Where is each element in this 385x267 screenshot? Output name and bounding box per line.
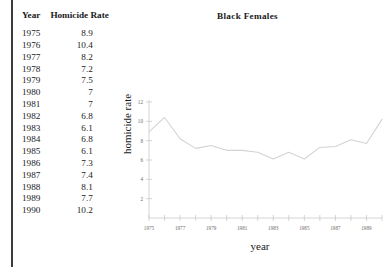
page-left-rule xyxy=(11,0,13,267)
cell-year: 1987 xyxy=(22,171,50,183)
x-tick-label: 1981 xyxy=(237,225,248,231)
table-row: 19817 xyxy=(22,100,109,112)
cell-homicide-rate: 6.1 xyxy=(50,147,108,159)
cell-homicide-rate: 7.3 xyxy=(50,159,108,171)
column-header-homicide-rate: Homicide Rate xyxy=(50,11,108,29)
y-tick-label: 8 xyxy=(140,138,143,144)
chart-data-line xyxy=(149,117,382,159)
cell-homicide-rate: 6.8 xyxy=(50,135,108,147)
table-header: Year Homicide Rate xyxy=(22,11,109,29)
cell-year: 1982 xyxy=(22,112,50,124)
table-body: 19758.9197610.419778.219787.219797.51980… xyxy=(22,29,109,218)
cell-homicide-rate: 8.2 xyxy=(50,53,108,65)
cell-year: 1990 xyxy=(22,206,50,218)
x-tick-label: 1987 xyxy=(330,225,341,231)
cell-homicide-rate: 7 xyxy=(50,88,108,100)
y-tick-label: 2 xyxy=(140,196,143,202)
chart-series-group xyxy=(149,117,382,159)
y-tick-label: 4 xyxy=(140,176,143,182)
table-row: 19877.4 xyxy=(22,171,109,183)
page-root: Year Homicide Rate 19758.9197610.419778.… xyxy=(0,0,385,267)
y-tick-label: 10 xyxy=(138,118,144,124)
cell-homicide-rate: 7.2 xyxy=(50,65,108,77)
cell-year: 1986 xyxy=(22,159,50,171)
chart-canvas: 2468101219751977197919811983198519871989 xyxy=(110,0,385,267)
cell-homicide-rate: 7.5 xyxy=(50,76,108,88)
table-row: 199010.2 xyxy=(22,206,109,218)
cell-homicide-rate: 8.1 xyxy=(50,183,108,195)
cell-year: 1981 xyxy=(22,100,50,112)
x-tick-label: 1979 xyxy=(206,225,217,231)
cell-year: 1977 xyxy=(22,53,50,65)
line-chart: Black Females homicide rate year 2468101… xyxy=(110,0,385,267)
cell-homicide-rate: 6.8 xyxy=(50,112,108,124)
x-tick-label: 1977 xyxy=(175,225,186,231)
table-row: 19867.3 xyxy=(22,159,109,171)
table-row: 19778.2 xyxy=(22,53,109,65)
x-tick-label: 1975 xyxy=(144,225,155,231)
x-tick-label: 1983 xyxy=(268,225,279,231)
cell-homicide-rate: 7 xyxy=(50,100,108,112)
cell-homicide-rate: 6.1 xyxy=(50,124,108,136)
column-header-year: Year xyxy=(22,11,50,29)
data-table: Year Homicide Rate 19758.9197610.419778.… xyxy=(22,11,109,218)
cell-homicide-rate: 10.4 xyxy=(50,41,108,53)
x-tick-label: 1985 xyxy=(299,225,310,231)
y-tick-label: 6 xyxy=(140,157,143,163)
y-tick-label: 12 xyxy=(138,99,144,105)
x-tick-label: 1989 xyxy=(361,225,372,231)
cell-homicide-rate: 10.2 xyxy=(50,206,108,218)
chart-axes: 2468101219751977197919811983198519871989 xyxy=(138,99,382,231)
table-header-row: Year Homicide Rate xyxy=(22,11,109,29)
table-row: 19826.8 xyxy=(22,112,109,124)
cell-homicide-rate: 7.4 xyxy=(50,171,108,183)
